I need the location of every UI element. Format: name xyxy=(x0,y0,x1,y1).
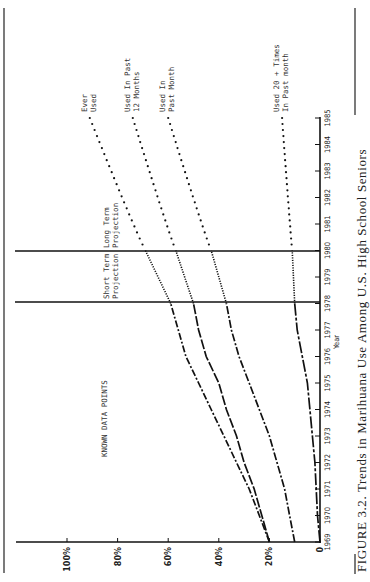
long-term-dot xyxy=(184,171,186,173)
long-term-dot xyxy=(98,141,100,143)
y-tick-label: 20% xyxy=(265,547,274,566)
long-term-dot xyxy=(281,123,283,125)
long-term-label-line1: Long Term xyxy=(102,207,111,248)
long-term-dot xyxy=(198,213,200,215)
long-term-dot xyxy=(188,183,190,185)
long-term-dot xyxy=(96,135,98,137)
long-term-dot xyxy=(171,129,173,131)
long-term-dot xyxy=(160,207,162,209)
long-term-dot xyxy=(134,123,136,125)
long-term-dot xyxy=(147,165,149,167)
long-term-dot xyxy=(285,165,287,167)
long-term-dot xyxy=(121,195,123,197)
long-term-dot xyxy=(91,123,93,125)
x-tick-label: 1977 xyxy=(323,321,332,338)
long-term-dot xyxy=(149,171,151,173)
axis-ticks: 1969197019711972197319741975197619771978… xyxy=(63,109,332,571)
long-term-dot xyxy=(156,195,158,197)
long-term-dot xyxy=(182,165,184,167)
y-tick-label: 100% xyxy=(63,547,72,572)
x-tick-label: 1971 xyxy=(323,480,332,497)
long-term-label-line2: Projection xyxy=(111,203,120,248)
series-label: Used In xyxy=(158,80,167,112)
long-term-dot xyxy=(166,225,168,227)
long-term-dot xyxy=(284,159,286,161)
long-term-dot xyxy=(200,219,202,221)
long-term-dot xyxy=(132,117,134,119)
rotated-figure: 1969197019711972197319741975197619771978… xyxy=(0,0,370,582)
x-tick-label: 1979 xyxy=(323,268,332,285)
series-label: In Past month xyxy=(281,53,290,112)
y-tick-label: 0 xyxy=(316,547,325,553)
y-tick-label: 80% xyxy=(114,547,123,566)
x-tick-label: 1973 xyxy=(323,427,332,444)
x-tick-label: 1982 xyxy=(323,189,332,206)
long-term-dot xyxy=(152,183,154,185)
long-term-dot xyxy=(141,243,143,245)
y-tick-label: 40% xyxy=(215,547,224,566)
long-term-dot xyxy=(196,207,198,209)
long-term-dot xyxy=(281,117,283,119)
x-tick-label: 1972 xyxy=(323,454,332,471)
long-term-dot xyxy=(123,201,125,203)
short-term-label-line1: Short Term xyxy=(102,253,111,299)
long-term-dot xyxy=(287,201,289,203)
series-label: Used xyxy=(89,94,98,112)
x-tick-label: 1970 xyxy=(323,507,332,524)
long-term-dot xyxy=(288,213,290,215)
data-series xyxy=(89,117,320,542)
long-term-dot xyxy=(291,243,293,245)
long-term-dot xyxy=(170,237,172,239)
marihuana-trends-chart: 1969197019711972197319741975197619771978… xyxy=(0,0,370,582)
x-tick-label: 1981 xyxy=(323,215,332,232)
series-short-term-projection xyxy=(176,251,194,304)
x-tick-label: 1974 xyxy=(323,401,332,418)
series-label: Ever xyxy=(80,93,89,112)
x-tick-label: 1976 xyxy=(323,348,332,365)
x-axis-title: Year xyxy=(332,335,341,350)
long-term-dot xyxy=(167,117,169,119)
long-term-dot xyxy=(169,123,171,125)
long-term-dot xyxy=(133,225,135,227)
known-data-points-label: KNOWN DATA POINTS xyxy=(100,380,109,457)
long-term-dot xyxy=(143,153,145,155)
x-tick-label: 1980 xyxy=(323,242,332,259)
series-short-term-projection xyxy=(145,251,170,304)
long-term-dot xyxy=(290,237,292,239)
long-term-dot xyxy=(286,189,288,191)
long-term-dot xyxy=(158,201,160,203)
series-short-term-projection xyxy=(211,251,226,304)
long-term-dot xyxy=(175,141,177,143)
long-term-dot xyxy=(106,159,108,161)
x-tick-label: 1975 xyxy=(323,374,332,391)
long-term-dot xyxy=(89,117,91,119)
long-term-dot xyxy=(283,141,285,143)
series-known-line xyxy=(226,304,294,543)
long-term-dot xyxy=(290,231,292,233)
series-known-line xyxy=(171,304,270,543)
long-term-dot xyxy=(139,237,141,239)
series-label: 12 Months xyxy=(132,71,141,112)
series-known-line xyxy=(194,304,270,543)
long-term-dot xyxy=(202,225,204,227)
long-term-dot xyxy=(103,153,105,155)
long-term-dot xyxy=(287,195,289,197)
long-term-dot xyxy=(289,219,291,221)
long-term-dot xyxy=(116,183,118,185)
long-term-dot xyxy=(282,135,284,137)
long-term-dot xyxy=(204,231,206,233)
long-term-dot xyxy=(176,147,178,149)
long-term-dot xyxy=(94,129,96,131)
long-term-dot xyxy=(108,165,110,167)
long-term-dot xyxy=(118,189,120,191)
long-term-dot xyxy=(162,213,164,215)
long-term-dot xyxy=(186,177,188,179)
long-term-dot xyxy=(101,147,103,149)
long-term-dot xyxy=(131,219,133,221)
series-label: Used 20 + Times xyxy=(272,44,281,112)
long-term-dot xyxy=(190,189,192,191)
long-term-dot xyxy=(285,177,287,179)
long-term-dot xyxy=(128,213,130,215)
long-term-dot xyxy=(145,159,147,161)
long-term-dot xyxy=(154,189,156,191)
